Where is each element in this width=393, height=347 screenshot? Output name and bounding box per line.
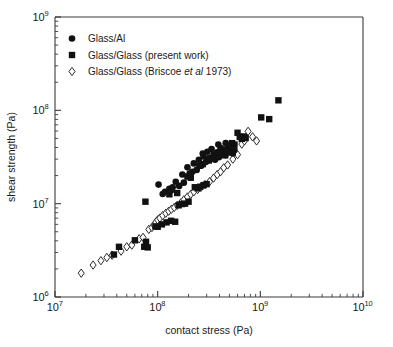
legend-marker-square-icon (69, 52, 75, 58)
legend-label: Glass/Glass (present work) (88, 50, 209, 61)
legend-label: Glass/Glass (Briscoe et al 1973) (88, 66, 231, 77)
data-point-square (242, 135, 248, 141)
legend-label-citation: et al (184, 66, 204, 77)
data-point-circle (181, 179, 188, 186)
figure-container: 1071081091010 106107108109 Glass/AlGlass… (0, 0, 393, 347)
x-tick-label-exponent: 8 (161, 299, 165, 308)
data-point-circle (215, 141, 222, 148)
x-tick-label-base: 10 (252, 301, 264, 313)
data-point-square (275, 97, 281, 103)
data-point-circle (187, 174, 194, 181)
data-point-square (145, 244, 151, 250)
data-point-circle (184, 164, 191, 171)
data-point-square (172, 219, 178, 225)
data-point-square (266, 116, 272, 122)
x-tick-label-base: 10 (149, 301, 161, 313)
y-tick-label-base: 10 (32, 11, 44, 23)
data-point-circle (231, 147, 238, 154)
data-point-circle (222, 140, 229, 147)
data-point-square (174, 190, 180, 196)
x-tick-label-exponent: 7 (59, 299, 63, 308)
y-tick-label-exponent: 8 (44, 102, 48, 111)
legend-item[interactable]: Glass/Glass (present work) (69, 50, 209, 61)
data-point-square (143, 239, 149, 245)
legend-label-part: Glass/Glass (Briscoe (88, 66, 184, 77)
y-tick-label-exponent: 9 (44, 9, 48, 18)
data-point-square (185, 198, 191, 204)
x-tick-label-exponent: 10 (364, 299, 372, 308)
x-tick-label-base: 10 (47, 301, 59, 313)
legend-label-year: 1973) (203, 66, 231, 77)
y-axis-title: shear strength (Pa) (5, 112, 17, 202)
data-point-square (258, 114, 264, 120)
data-point-square (142, 198, 148, 204)
legend-marker-circle-icon (69, 35, 76, 42)
data-point-square (132, 237, 138, 243)
data-point-square (111, 251, 117, 257)
x-tick-label-base: 10 (352, 301, 364, 313)
x-tick-label-exponent: 9 (264, 299, 268, 308)
data-point-circle (208, 146, 215, 153)
y-tick-label-base: 10 (32, 198, 44, 210)
y-tick-label-exponent: 7 (44, 196, 48, 205)
data-point-circle (179, 171, 186, 178)
scatter-plot: 1071081091010 106107108109 Glass/AlGlass… (0, 0, 393, 347)
data-point-circle (199, 150, 206, 157)
y-tick-label-base: 10 (32, 291, 44, 303)
legend-item[interactable]: Glass/Glass (Briscoe et al 1973) (69, 66, 231, 77)
y-tick-label-exponent: 6 (44, 289, 48, 298)
data-point-circle (168, 187, 175, 194)
legend-label: Glass/Al (88, 33, 125, 44)
data-point-circle (155, 181, 162, 188)
x-axis-title: contact stress (Pa) (165, 324, 253, 336)
data-point-square (203, 181, 209, 187)
data-point-square (116, 244, 122, 250)
y-tick-label-base: 10 (32, 104, 44, 116)
data-point-circle (189, 168, 196, 175)
